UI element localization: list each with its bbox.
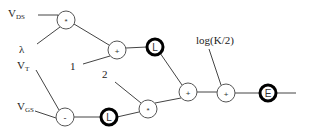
label-subscript: GS	[25, 106, 34, 114]
node-subtract-sub1: -	[56, 108, 74, 126]
input-label-vgs: VGS	[17, 101, 34, 114]
node-op-label: L	[152, 42, 158, 53]
label-subscript: DS	[16, 13, 25, 21]
input-label-vt: VT	[17, 60, 29, 73]
node-log-log2: L	[101, 109, 117, 125]
node-op-label: +	[115, 47, 120, 56]
label-main: V	[17, 59, 25, 71]
label-main: 1	[70, 60, 76, 72]
edge-line	[155, 98, 181, 103]
label-main: log(K/2)	[196, 34, 234, 46]
node-op-label: -	[64, 113, 67, 123]
edge-line	[37, 27, 60, 44]
edge-line	[35, 111, 56, 118]
label-main: V	[8, 7, 16, 19]
input-label-one: 1	[70, 61, 76, 72]
label-main: 2	[102, 68, 108, 80]
node-multiply-mul2: *	[139, 100, 157, 118]
node-op-label: +	[224, 90, 229, 99]
edge-line	[117, 112, 139, 117]
node-op-label: *	[146, 106, 149, 115]
node-op-label: +	[186, 89, 191, 98]
computation-graph: *+L-L*++E	[0, 0, 313, 133]
edge-line	[209, 49, 221, 85]
node-add-add1: +	[108, 41, 126, 59]
node-op-label: E	[265, 88, 272, 99]
edge-line	[115, 82, 141, 103]
input-label-lambda: λ	[19, 44, 24, 55]
input-label-two: 2	[102, 69, 108, 80]
label-main: V	[17, 100, 25, 112]
node-op-label: L	[106, 112, 112, 123]
input-label-logk2: log(K/2)	[196, 35, 234, 46]
edge-line	[160, 53, 182, 85]
node-add-add2: +	[179, 83, 197, 101]
edge-line	[83, 56, 110, 64]
node-exp-exp1: E	[260, 85, 276, 101]
node-multiply-mul1: *	[57, 11, 75, 29]
label-main: λ	[19, 43, 24, 55]
edge-line	[74, 24, 109, 45]
node-add-add3: +	[217, 84, 235, 102]
node-op-label: *	[64, 17, 67, 26]
edge-line	[126, 47, 147, 48]
label-subscript: T	[25, 65, 29, 73]
input-label-vds: VDS	[8, 8, 25, 21]
edge-line	[36, 70, 59, 110]
node-log-log1: L	[147, 39, 163, 55]
